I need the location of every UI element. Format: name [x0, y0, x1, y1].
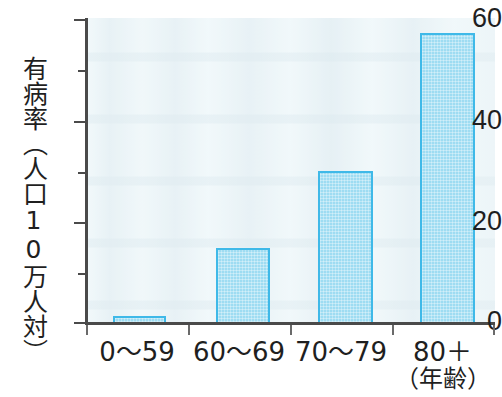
y-tick-0 [74, 322, 86, 324]
y-tick-label-60: 60 [434, 5, 502, 32]
x-tick-1 [188, 325, 190, 335]
y-tick-label-20: 20 [434, 208, 502, 235]
y-tick-60 [74, 19, 86, 21]
y-tick-40 [74, 121, 86, 123]
x-tick-3 [392, 325, 394, 335]
y-tick-50 [78, 70, 86, 72]
x-label-main: 70〜79 [295, 337, 387, 367]
y-axis-title: 有病率（人口10万人対） [6, 56, 46, 318]
x-tick-label-age-60-69: 60〜69 [188, 338, 290, 366]
x-tick-label-age-0-59: 0〜59 [86, 338, 188, 366]
x-label-main: 0〜59 [99, 337, 175, 367]
x-label-main: 80＋ [413, 337, 472, 367]
y-tick-20 [74, 222, 86, 224]
y-tick-10 [78, 273, 86, 275]
y-tick-label-40: 40 [434, 107, 502, 134]
bar-chart-figure: 有病率（人口10万人対） 60 40 20 0 0〜59 60〜69 70〜79… [0, 0, 502, 397]
x-tick-4 [493, 325, 495, 335]
x-tick-0 [86, 325, 88, 335]
bar-age-70-79 [318, 171, 373, 324]
x-axis-unit-label: （年齢） [392, 367, 493, 393]
bar-age-80-plus [420, 33, 475, 324]
y-tick-label-0: 0 [434, 308, 502, 335]
x-tick-label-age-70-79: 70〜79 [290, 338, 392, 366]
x-label-main: 60〜69 [193, 337, 285, 367]
x-tick-2 [290, 325, 292, 335]
y-tick-30 [78, 172, 86, 174]
x-tick-label-age-80-plus: 80＋ （年齢） [392, 338, 493, 393]
bar-age-60-69 [216, 248, 270, 325]
plot-area [85, 18, 495, 324]
